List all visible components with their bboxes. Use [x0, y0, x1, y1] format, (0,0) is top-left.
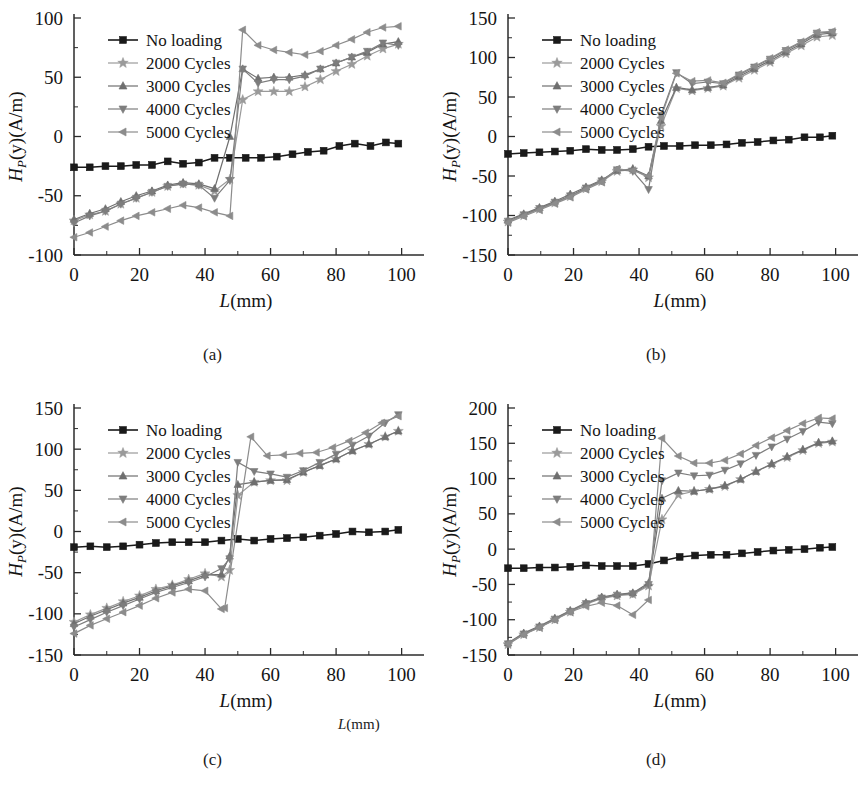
legend-label: 5000 Cycles	[146, 123, 231, 142]
y-tick-label: 200	[469, 398, 498, 419]
y-tick-label: 100	[35, 8, 64, 29]
plot-canvas-c: -150-100-50050100150020406080100L(mm)HP(…	[0, 390, 434, 730]
x-tick-label: 40	[630, 264, 649, 285]
x-tick-label: 20	[130, 664, 149, 685]
legend-label: 2000 Cycles	[580, 444, 665, 463]
legend-label: 4000 Cycles	[580, 100, 665, 119]
y-tick-label: 0	[54, 521, 64, 542]
y-tick-label: 100	[35, 439, 64, 460]
subplot-b: -150-100-50050100150020406080100L(mm)HP(…	[434, 0, 868, 330]
series-no-loading	[505, 544, 836, 572]
y-tick-label: 50	[478, 503, 497, 524]
y-tick-label: 100	[469, 468, 498, 489]
legend-entry-4000-cycles: 4000 Cycles	[108, 490, 231, 509]
x-tick-label: 80	[761, 664, 780, 685]
legend-label: No loading	[580, 31, 657, 50]
x-axis-label: L(mm)	[653, 690, 707, 712]
y-tick-label: -100	[28, 603, 63, 624]
legend: No loading2000 Cycles3000 Cycles4000 Cyc…	[542, 421, 665, 532]
x-tick-label: 0	[69, 264, 79, 285]
legend-entry-5000-cycles: 5000 Cycles	[108, 513, 231, 532]
subplot-d: -150-100-50050100150200020406080100L(mm)…	[434, 390, 868, 730]
x-tick-label: 40	[196, 664, 215, 685]
y-tick-label: 50	[478, 87, 497, 108]
x-tick-label: 20	[564, 264, 583, 285]
y-tick-label: -100	[462, 609, 497, 630]
legend-label: 4000 Cycles	[146, 490, 231, 509]
x-tick-label: 80	[327, 264, 346, 285]
y-tick-label: -100	[28, 245, 63, 266]
legend-label: No loading	[580, 421, 657, 440]
legend-entry-4000-cycles: 4000 Cycles	[108, 100, 231, 119]
subplot-c: -150-100-50050100150020406080100L(mm)HP(…	[0, 390, 434, 730]
x-tick-label: 60	[261, 664, 280, 685]
y-tick-label: -50	[38, 185, 63, 206]
y-tick-label: 0	[54, 126, 64, 147]
x-tick-label: 60	[695, 664, 714, 685]
x-tick-label: 40	[196, 264, 215, 285]
y-tick-label: 100	[469, 47, 498, 68]
legend-entry-2000-cycles: 2000 Cycles	[108, 444, 231, 463]
x-tick-label: 100	[821, 664, 850, 685]
x-axis-label: L(mm)	[219, 290, 273, 312]
y-tick-label: 0	[488, 126, 498, 147]
y-tick-label: -100	[462, 205, 497, 226]
y-axis-label: HP(y)(A/m)	[5, 91, 29, 182]
series-5000-cycles	[504, 414, 835, 647]
legend-label: 5000 Cycles	[580, 513, 665, 532]
legend-label: No loading	[146, 421, 223, 440]
legend-entry-5000-cycles: 5000 Cycles	[108, 123, 231, 142]
legend-entry-5000-cycles: 5000 Cycles	[542, 513, 665, 532]
x-axis-label: L(mm)	[219, 690, 273, 712]
legend-label: 5000 Cycles	[580, 123, 665, 142]
legend: No loading2000 Cycles3000 Cycles4000 Cyc…	[542, 31, 665, 142]
legend-entry-4000-cycles: 4000 Cycles	[542, 100, 665, 119]
y-tick-label: 150	[35, 398, 64, 419]
y-tick-label: -150	[462, 245, 497, 266]
figure-page: -100-50050100020406080100L(mm)HP(y)(A/m)…	[0, 0, 868, 791]
subplot-caption-d: (d)	[646, 750, 666, 770]
x-tick-label: 0	[503, 264, 513, 285]
legend: No loading2000 Cycles3000 Cycles4000 Cyc…	[108, 31, 231, 142]
legend-label: 4000 Cycles	[146, 100, 231, 119]
y-axis-label: HP(y)(A/m)	[5, 486, 29, 577]
y-tick-label: -50	[472, 166, 497, 187]
series-3000-cycles	[504, 437, 836, 646]
legend-entry-2000-cycles: 2000 Cycles	[108, 54, 231, 73]
series-line	[508, 441, 832, 643]
subplot-caption-a: (a)	[203, 345, 222, 365]
plot-canvas-b: -150-100-50050100150020406080100L(mm)HP(…	[434, 0, 868, 330]
x-tick-label: 60	[695, 264, 714, 285]
legend-label: 2000 Cycles	[580, 54, 665, 73]
x-tick-label: 100	[821, 264, 850, 285]
y-tick-label: 150	[469, 8, 498, 29]
y-tick-label: 0	[488, 539, 498, 560]
legend-entry-2000-cycles: 2000 Cycles	[542, 54, 665, 73]
legend-label: 3000 Cycles	[146, 77, 231, 96]
x-tick-label: 60	[261, 264, 280, 285]
legend-entry-no-loading: No loading	[542, 31, 657, 50]
x-tick-label: 100	[387, 664, 416, 685]
legend: No loading2000 Cycles3000 Cycles4000 Cyc…	[108, 421, 231, 532]
plot-canvas-d: -150-100-50050100150200020406080100L(mm)…	[434, 390, 868, 730]
series-3000-cycles	[504, 29, 836, 223]
series-2000-cycles	[503, 30, 837, 226]
subplot-caption-c: (c)	[203, 750, 222, 770]
series-no-loading	[505, 132, 836, 157]
subplot-caption-b: (b)	[646, 345, 666, 365]
y-axis-label: HP(y)(A/m)	[439, 91, 463, 182]
legend-entry-3000-cycles: 3000 Cycles	[542, 77, 665, 96]
x-tick-label: 40	[630, 664, 649, 685]
x-tick-label: 80	[327, 664, 346, 685]
legend-label: 5000 Cycles	[146, 513, 231, 532]
legend-entry-no-loading: No loading	[108, 31, 223, 50]
x-tick-label: 100	[387, 264, 416, 285]
y-tick-label: -150	[28, 645, 63, 666]
legend-label: 4000 Cycles	[580, 490, 665, 509]
x-tick-label: 0	[503, 664, 513, 685]
plot-canvas-a: -100-50050100020406080100L(mm)HP(y)(A/m)…	[0, 0, 434, 330]
x-tick-label: 20	[130, 264, 149, 285]
x-tick-label: 80	[761, 264, 780, 285]
y-tick-label: 50	[44, 67, 63, 88]
y-tick-label: -150	[462, 645, 497, 666]
